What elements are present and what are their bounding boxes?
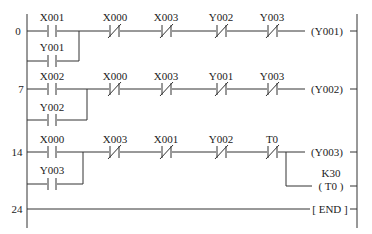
contact-label: Y001 — [209, 70, 233, 82]
rung-0: 0 X001 X000 X003 Y002 — [15, 11, 357, 67]
contact-label: X000 — [103, 70, 128, 82]
nc-contact-icon — [215, 24, 228, 38]
no-contact-icon — [48, 55, 56, 67]
no-contact-icon — [48, 178, 56, 190]
contact-label: X001 — [40, 11, 64, 23]
nc-contact-icon — [215, 82, 228, 96]
no-contact-icon — [48, 146, 56, 158]
nc-contact-icon — [160, 24, 173, 38]
contact-label: Y003 — [40, 164, 65, 176]
contact-label: Y002 — [209, 133, 233, 145]
output-coil: (Y002) — [311, 83, 343, 96]
nc-contact-icon — [108, 24, 121, 38]
nc-contact-icon — [108, 82, 121, 96]
output-coil: (Y001) — [311, 25, 343, 38]
rung-7: 7 X002 X000 X003 Y001 Y003 — [18, 70, 357, 126]
step-number: 24 — [12, 203, 24, 215]
contact-label: X000 — [103, 11, 128, 23]
nc-contact-icon — [160, 145, 173, 159]
contact-label: X003 — [103, 133, 128, 145]
contact-label: Y001 — [40, 41, 64, 53]
timer-coil: ( T0 ) — [319, 180, 344, 193]
contact-label: X001 — [154, 133, 178, 145]
no-contact-icon — [48, 25, 56, 37]
contact-label: Y002 — [40, 101, 64, 113]
step-number: 14 — [12, 146, 24, 158]
nc-contact-icon — [160, 82, 173, 96]
contact-label: X003 — [154, 11, 179, 23]
contact-label: X002 — [40, 70, 64, 82]
contact-label: Y002 — [209, 11, 233, 23]
nc-contact-icon — [215, 145, 228, 159]
rung-24: 24 [ END ] — [12, 203, 358, 215]
nc-contact-icon — [266, 24, 279, 38]
contact-label: Y003 — [260, 11, 285, 23]
no-contact-icon — [48, 114, 56, 126]
output-coil: (Y003) — [311, 146, 343, 159]
timer-preset: K30 — [322, 167, 341, 179]
step-number: 7 — [18, 83, 24, 95]
nc-contact-icon — [266, 145, 279, 159]
contact-label: Y003 — [260, 70, 285, 82]
contact-label: X000 — [40, 133, 65, 145]
end-instruction: [ END ] — [312, 203, 347, 215]
contact-label: T0 — [266, 133, 279, 145]
rung-14: 14 X000 X003 X001 Y002 T0 — [12, 133, 358, 193]
no-contact-icon — [48, 83, 56, 95]
nc-contact-icon — [108, 145, 121, 159]
ladder-diagram: 0 X001 X000 X003 Y002 — [0, 0, 372, 234]
step-number: 0 — [15, 25, 21, 37]
contact-label: X003 — [154, 70, 179, 82]
nc-contact-icon — [266, 82, 279, 96]
